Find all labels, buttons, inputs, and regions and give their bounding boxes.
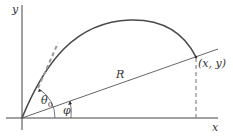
- point-label: (x, y): [198, 58, 226, 69]
- y-axis-label: y: [12, 4, 18, 15]
- point-label-text: (x, y): [198, 57, 226, 70]
- endpoint-dot: [195, 56, 198, 59]
- phi-label: φ: [63, 105, 71, 116]
- range-label: R: [116, 69, 124, 80]
- theta-symbol: θ: [41, 94, 48, 107]
- theta-subscript: 0: [48, 100, 53, 109]
- projectile-diagram: y x R (x, y) θ0 φ: [0, 0, 233, 137]
- theta-label: θ0: [41, 95, 53, 109]
- initial-velocity-dashed-line: [38, 43, 58, 88]
- x-axis-label: x: [212, 122, 218, 133]
